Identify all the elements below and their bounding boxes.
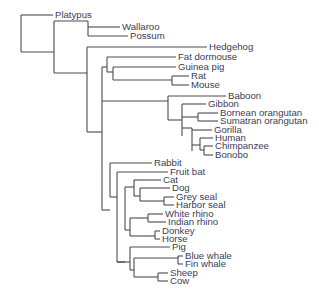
leaf-label-mouse: Mouse bbox=[191, 79, 220, 90]
leaf-label-possum: Possum bbox=[130, 30, 165, 41]
leaf-label-platypus: Platypus bbox=[55, 9, 92, 20]
leaf-label-cow: Cow bbox=[170, 275, 189, 286]
leaf-label-bonobo: Bonobo bbox=[215, 149, 248, 160]
leaf-label-pig: Pig bbox=[172, 241, 186, 252]
phylogenetic-tree: PlatypusWallarooPossumHedgehogFat dormou… bbox=[0, 0, 319, 299]
tree-leaf-labels: PlatypusWallarooPossumHedgehogFat dormou… bbox=[55, 9, 307, 286]
